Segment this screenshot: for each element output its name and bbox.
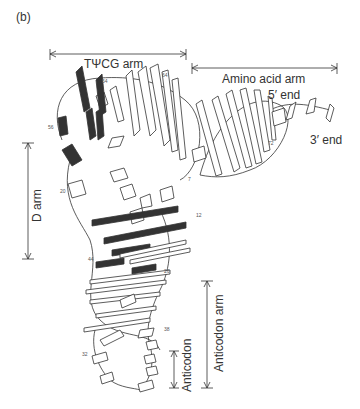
anticodon-label: Anticodon [180, 339, 194, 392]
residue-56: 56 [48, 124, 54, 130]
three-prime-end-label: 3′ end [310, 133, 342, 147]
d-arm-label: D arm [30, 189, 44, 222]
residue-7: 7 [188, 176, 191, 182]
residue-54: 54 [102, 78, 108, 84]
five-prime-end-label: 5′ end [268, 88, 300, 102]
residue-12: 12 [196, 212, 202, 218]
residue-32: 32 [82, 351, 88, 357]
amino-acid-arm-label: Amino acid arm [222, 72, 305, 86]
residue-38: 38 [164, 326, 170, 332]
dark-base [76, 66, 90, 112]
anticodon-arm-label: Anticodon arm [212, 295, 226, 372]
tpsicg-arm-label: TΨCG arm [84, 57, 143, 71]
residue-26: 26 [164, 268, 170, 274]
residue-44: 44 [88, 256, 94, 262]
residue-64: 64 [162, 72, 168, 78]
residue-72: 72 [268, 140, 274, 146]
residue-20: 20 [60, 188, 66, 194]
